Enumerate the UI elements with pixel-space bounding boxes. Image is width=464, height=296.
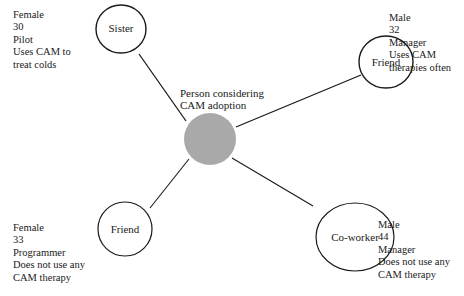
friend-top-cam-use-1: Uses CAM [389, 49, 451, 61]
sister-cam-use-2: treat colds [13, 59, 71, 71]
sister-node-label: Sister [96, 22, 146, 34]
friend-top-age: 32 [389, 24, 451, 36]
center-node [184, 113, 236, 165]
coworker-cam-use-1: Does not use any [378, 256, 450, 268]
coworker-gender: Male [378, 219, 450, 231]
friend-bottom-info: Female 33 Programmer Does not use any CA… [13, 222, 85, 284]
connector-sister [139, 54, 186, 121]
center-label: Person considering CAM adoption [180, 87, 264, 111]
coworker-occupation: Manager [378, 244, 450, 256]
friend-bottom-cam-use-1: Does not use any [13, 259, 85, 271]
center-label-line-1: Person considering [180, 87, 264, 99]
friend-bottom-occupation: Programmer [13, 247, 85, 259]
coworker-age: 44 [378, 231, 450, 243]
friend-bottom-node-label: Friend [98, 223, 152, 235]
friend-top-gender: Male [389, 12, 451, 24]
friend-bottom-gender: Female [13, 222, 85, 234]
friend-bottom-age: 33 [13, 234, 85, 246]
sister-occupation: Pilot [13, 34, 71, 46]
sister-gender: Female [13, 9, 71, 21]
coworker-info: Male 44 Manager Does not use any CAM the… [378, 219, 450, 281]
friend-top-info: Male 32 Manager Uses CAM therapies often [389, 12, 451, 74]
friend-bottom-cam-use-2: CAM therapy [13, 272, 85, 284]
sister-age: 30 [13, 21, 71, 33]
coworker-cam-use-2: CAM therapy [378, 269, 450, 281]
sister-info: Female 30 Pilot Uses CAM to treat colds [13, 9, 71, 71]
center-label-line-2: CAM adoption [180, 99, 264, 111]
friend-top-cam-use-2: therapies often [389, 62, 451, 74]
sister-cam-use-1: Uses CAM to [13, 46, 71, 58]
connector-coworker [232, 158, 313, 206]
connector-friend-bottom [150, 159, 189, 208]
friend-top-occupation: Manager [389, 37, 451, 49]
